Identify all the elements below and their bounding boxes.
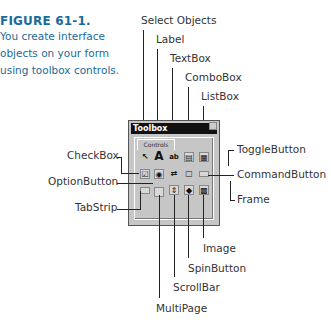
leader-line bbox=[230, 181, 231, 201]
commandbutton-icon[interactable] bbox=[199, 171, 209, 177]
toolbox-title: Toolbox bbox=[131, 123, 217, 134]
caption-line-3: using toolbox controls. bbox=[0, 62, 130, 79]
callout-label: Label bbox=[156, 33, 184, 45]
leader-line bbox=[121, 173, 139, 174]
callout-optionbutton: OptionButton bbox=[48, 175, 118, 187]
leader-line bbox=[117, 209, 141, 210]
leader-line bbox=[188, 195, 189, 258]
scrollbar-icon[interactable]: ⇕ bbox=[169, 185, 179, 195]
callout-scrollbar: ScrollBar bbox=[173, 281, 220, 293]
close-icon[interactable] bbox=[209, 122, 217, 130]
figure-caption: FIGURE 61-1. You create interface object… bbox=[0, 14, 130, 79]
togglebutton-icon[interactable]: ⇄ bbox=[169, 169, 179, 179]
leader-line bbox=[117, 183, 153, 184]
leader-line bbox=[203, 195, 204, 238]
tabstrip-icon[interactable] bbox=[140, 187, 150, 194]
leader-line bbox=[208, 175, 234, 176]
leader-line bbox=[140, 191, 141, 210]
leader-line bbox=[230, 200, 235, 201]
combobox-icon[interactable]: ▤ bbox=[184, 152, 194, 162]
callout-checkbox: CheckBox bbox=[67, 149, 119, 161]
callout-togglebutton: ToggleButton bbox=[237, 143, 306, 155]
callout-spinbutton: SpinButton bbox=[188, 262, 246, 274]
leader-line bbox=[159, 195, 160, 298]
leader-line bbox=[174, 195, 175, 277]
caption-line-1: You create interface bbox=[0, 28, 130, 45]
callout-tabstrip: TabStrip bbox=[75, 201, 117, 213]
leader-line bbox=[121, 157, 122, 174]
select-objects-icon[interactable]: ↖ bbox=[140, 152, 150, 162]
caption-line-2: objects on your form bbox=[0, 45, 130, 62]
callout-textbox: TextBox bbox=[170, 52, 211, 64]
label-icon[interactable]: A bbox=[154, 151, 164, 161]
spinbutton-icon[interactable]: ◆ bbox=[184, 185, 194, 195]
callout-multipage: MultiPage bbox=[156, 302, 207, 314]
callout-select-objects: Select Objects bbox=[141, 14, 216, 26]
callout-combobox: ComboBox bbox=[185, 71, 242, 83]
listbox-icon[interactable]: ▦ bbox=[199, 152, 209, 162]
leader-line bbox=[228, 150, 229, 166]
callout-frame: Frame bbox=[237, 193, 270, 205]
textbox-icon[interactable]: ab bbox=[169, 152, 179, 162]
callout-commandbutton: CommandButton bbox=[237, 168, 326, 180]
checkbox-icon[interactable]: ☑ bbox=[140, 169, 150, 179]
optionbutton-icon[interactable]: ◉ bbox=[154, 169, 164, 179]
figure-title: FIGURE 61-1. bbox=[0, 14, 130, 28]
frame-icon[interactable]: ▢ bbox=[184, 169, 194, 179]
image-icon[interactable]: ▩ bbox=[199, 185, 209, 195]
callout-image: Image bbox=[203, 242, 236, 254]
callout-listbox: ListBox bbox=[201, 90, 239, 102]
